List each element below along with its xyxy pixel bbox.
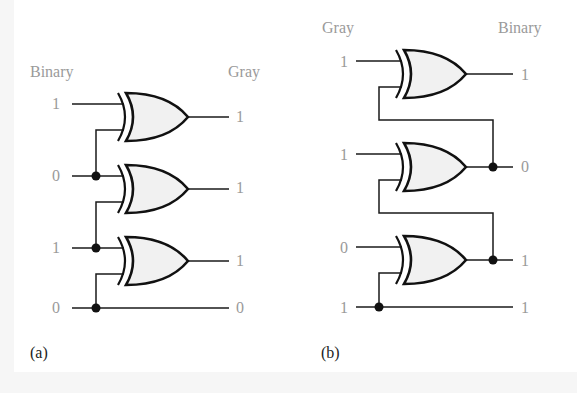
- panel-a-output-3: 0: [236, 299, 244, 316]
- panel-a-output-2: 1: [236, 252, 244, 269]
- panel-a: Binary Gray 1 0 1 0 1 1 1 0 (a): [30, 63, 260, 362]
- xor-gate-icon: [396, 143, 466, 191]
- panel-a-input-1: 0: [52, 167, 60, 184]
- panel-a-output-0: 1: [236, 108, 244, 125]
- panel-b-output-0: 1: [521, 66, 529, 83]
- panel-a-input-2: 1: [52, 239, 60, 256]
- logic-diagram: Binary Gray 1 0 1 0 1 1 1 0 (a): [0, 0, 577, 393]
- panel-b-input-0: 1: [340, 53, 348, 70]
- panel-b-input-1: 1: [340, 146, 348, 163]
- panel-b-input-3: 1: [340, 299, 348, 316]
- panel-b-caption: (b): [321, 344, 340, 362]
- junction-dot: [375, 303, 384, 312]
- panel-b-output-1: 0: [521, 158, 529, 175]
- xor-gate-icon: [396, 236, 466, 284]
- junction-dot: [92, 244, 101, 253]
- panel-a-output-header: Gray: [228, 63, 260, 81]
- junction-dot: [92, 172, 101, 181]
- panel-b-input-header: Gray: [322, 19, 354, 37]
- junction-dot: [489, 163, 498, 172]
- panel-b: Gray Binary 1 1 0 1 1 0 1 1 (b): [321, 19, 542, 362]
- panel-b-input-2: 0: [340, 239, 348, 256]
- junction-dot: [489, 256, 498, 265]
- panel-a-input-0: 1: [52, 95, 60, 112]
- junction-dot: [92, 304, 101, 313]
- xor-gate-icon: [118, 165, 188, 213]
- panel-b-output-header: Binary: [498, 19, 542, 37]
- xor-gate-icon: [118, 237, 188, 285]
- panel-b-output-2: 1: [521, 252, 529, 269]
- panel-a-output-1: 1: [236, 179, 244, 196]
- xor-gate-icon: [118, 93, 188, 141]
- xor-gate-icon: [396, 50, 466, 98]
- panel-a-input-header: Binary: [30, 63, 74, 81]
- panel-b-output-3: 1: [521, 299, 529, 316]
- panel-a-input-3: 0: [52, 299, 60, 316]
- panel-a-caption: (a): [30, 344, 48, 362]
